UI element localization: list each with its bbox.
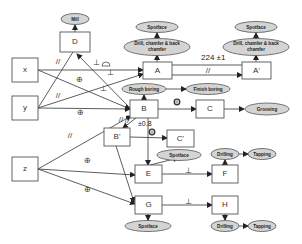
position-symbol: ⊕ (84, 156, 91, 165)
ellipse-spotface-A: Spotface (136, 22, 178, 33)
box-C-prime: C' (167, 130, 194, 147)
box-B: B (130, 100, 158, 118)
svg-text:G: G (145, 200, 151, 209)
svg-text:Tapping: Tapping (253, 224, 271, 229)
svg-text:y: y (23, 103, 27, 112)
box-F: F (212, 165, 238, 183)
ellipse-grooving: Grooving (245, 103, 289, 115)
svg-text:Spotface: Spotface (147, 25, 167, 30)
svg-text:F: F (223, 169, 228, 178)
profile-symbol (102, 62, 110, 66)
box-z: z (12, 157, 38, 181)
ellipse-spotface-A-prime: Spotface (235, 22, 277, 33)
box-B-prime: B' (104, 128, 130, 146)
perpendicular-symbol: ⊥ (93, 58, 100, 67)
svg-text:Spotface: Spotface (138, 224, 158, 229)
svg-text:Drill, chamfer & back: Drill, chamfer & back (233, 41, 279, 46)
position-symbol: ⊕ (84, 185, 91, 194)
svg-text:z: z (23, 164, 27, 173)
parallel-symbol: // (68, 131, 73, 140)
ellipse-tapping-F: Tapping (248, 149, 276, 160)
svg-text:Drill, chamfer & back: Drill, chamfer & back (134, 41, 180, 46)
svg-text:B: B (141, 104, 146, 113)
parallel-symbol: // (125, 116, 130, 125)
svg-text:Drilling: Drilling (217, 152, 233, 157)
position-symbol: ⊕ (76, 75, 83, 84)
ellipse-spotface-G: Spotface (125, 221, 171, 232)
ellipse-drilling-H: Drilling (211, 221, 239, 232)
svg-text:x: x (23, 65, 27, 74)
svg-text:Spotface: Spotface (246, 25, 266, 30)
svg-text:A': A' (253, 66, 260, 75)
ellipse-finish-boring: Finish boring (186, 84, 230, 95)
parallel-symbol: // (206, 66, 211, 75)
box-H: H (212, 196, 238, 214)
svg-text:Rough boring: Rough boring (129, 87, 159, 92)
ellipse-rough-boring: Rough boring (122, 84, 166, 95)
svg-text:H: H (222, 200, 228, 209)
svg-text:Drilling: Drilling (217, 224, 233, 229)
svg-text:A: A (155, 66, 161, 75)
svg-text:Finish boring: Finish boring (193, 87, 222, 92)
svg-text:Tapping: Tapping (253, 152, 271, 157)
svg-text:Grooving: Grooving (257, 107, 278, 112)
process-diagram: D x y z A A' B C B' C' E F (0, 0, 302, 244)
ellipse-drill-A: Drill, chamfer & back chamfer (124, 39, 190, 56)
perpendicular-symbol: ⊥ (185, 166, 192, 175)
parallel-symbol: // (56, 57, 61, 66)
svg-text:chamfer: chamfer (247, 47, 265, 52)
concentric-symbol (149, 129, 155, 135)
perpendicular-symbol: ⊥ (185, 197, 192, 206)
ellipse-drilling-F: Drilling (211, 149, 239, 160)
ellipse-tapping-H: Tapping (248, 221, 276, 232)
perpendicular-symbol: ⊥ (107, 68, 114, 77)
svg-text:E: E (146, 169, 151, 178)
position-symbol: ⊕ (77, 108, 84, 117)
perpendicular-symbol: ⊥ (100, 84, 107, 93)
box-y: y (12, 96, 38, 120)
parallel-symbol: // (119, 115, 124, 124)
ellipse-drill-A-prime: Drill, chamfer & back chamfer (223, 39, 289, 56)
svg-text:B': B' (114, 132, 121, 141)
ellipse-spotface-E: Spotface (157, 150, 201, 161)
box-C: C (196, 100, 224, 118)
dimension-A-A-prime: 224 ±1 (201, 53, 226, 62)
svg-text:Mill: Mill (71, 17, 79, 22)
box-G: G (135, 196, 162, 214)
svg-text:C: C (207, 104, 213, 113)
box-E: E (135, 165, 162, 183)
svg-text:chamfer: chamfer (148, 47, 166, 52)
box-A: A (143, 62, 172, 79)
svg-text:D: D (72, 37, 78, 46)
box-D: D (60, 32, 90, 52)
svg-text:Spotface: Spotface (169, 153, 189, 158)
svg-text:C': C' (177, 134, 185, 143)
parallel-symbol: // (56, 91, 61, 100)
box-x: x (12, 58, 38, 82)
ellipse-mill: Mill (61, 14, 89, 25)
dimension-B-tolerance: ±0.8 (138, 120, 152, 127)
box-A-prime: A' (242, 62, 271, 79)
concentric-symbol (174, 99, 180, 105)
